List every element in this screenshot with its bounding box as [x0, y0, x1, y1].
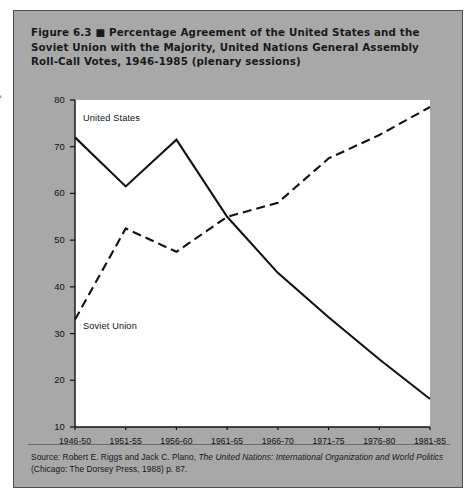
y-tick-label: 40: [39, 281, 65, 292]
y-axis-title: Percent agreement: [0, 19, 1, 179]
figure-root: Figure 6.3 ■ Percentage Agreement of the…: [0, 0, 475, 496]
figure-title-line-2: Soviet Union with the Majority, United N…: [31, 41, 419, 53]
plot-background: [75, 100, 430, 427]
y-tick-label: 70: [39, 141, 65, 152]
series-label: Soviet Union: [83, 321, 137, 331]
source-prefix: Source: Robert E. Riggs and Jack C. Plan…: [31, 452, 196, 462]
chart-canvas: [62, 87, 434, 430]
source-divider: [28, 444, 450, 445]
source-note: Source: Robert E. Riggs and Jack C. Plan…: [31, 451, 451, 476]
source-title-italic: The United Nations: International Organi…: [198, 452, 443, 462]
series-label: United States: [83, 113, 140, 123]
y-tick-label: 20: [39, 374, 65, 385]
y-tick-label: 30: [39, 328, 65, 339]
source-suffix: (Chicago: The Dorsey Press, 1988) p. 87.: [31, 464, 187, 474]
chart-plot-area: 10203040506070801946-501951-551956-60196…: [62, 87, 434, 430]
figure-title-line-1: Figure 6.3 ■ Percentage Agreement of the…: [31, 26, 420, 38]
y-tick-label: 50: [39, 234, 65, 245]
y-tick-label: 60: [39, 187, 65, 198]
figure-title-line-3: Roll-Call Votes, 1946-1985 (plenary sess…: [31, 55, 301, 67]
figure-title: Figure 6.3 ■ Percentage Agreement of the…: [31, 25, 441, 69]
y-tick-label: 10: [39, 421, 65, 432]
figure-panel: Figure 6.3 ■ Percentage Agreement of the…: [13, 10, 463, 488]
y-tick-label: 80: [39, 94, 65, 105]
